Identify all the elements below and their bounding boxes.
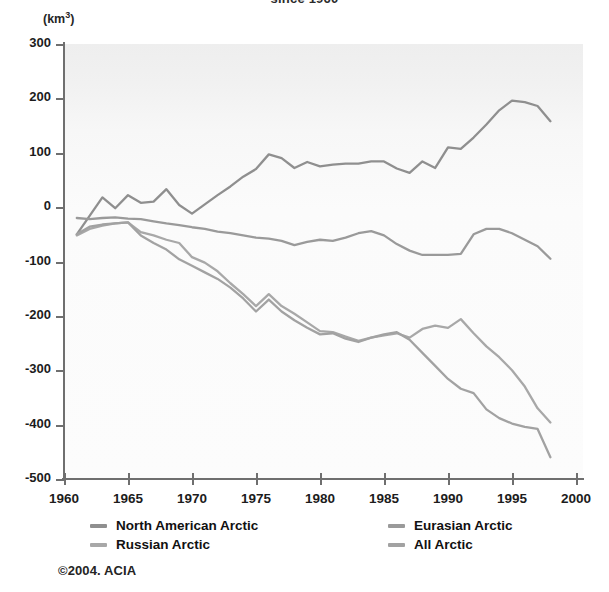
- y-axis-tick-label: -200: [25, 307, 51, 322]
- y-axis-tick: -300: [0, 370, 64, 371]
- y-axis-tick-mark: [56, 479, 64, 481]
- x-axis-tick-label: 1980: [305, 491, 335, 506]
- y-axis-tick-label: -100: [25, 253, 51, 268]
- legend-row: North American ArcticEurasian Arctic: [90, 518, 570, 537]
- legend-color-swatch: [90, 543, 107, 547]
- x-axis-tick-mark: [128, 473, 130, 485]
- copyright-credit: ©2004. ACIA: [58, 563, 136, 578]
- y-axis-tick-label: 300: [29, 35, 51, 50]
- plot-area: [64, 44, 583, 479]
- legend-item-label: All Arctic: [414, 537, 473, 552]
- y-axis-tick-label: -400: [25, 416, 51, 431]
- legend-item[interactable]: North American Arctic: [90, 518, 258, 533]
- y-axis-tick: 200: [0, 98, 64, 99]
- legend-color-swatch: [388, 543, 405, 547]
- x-axis-tick-mark: [256, 473, 258, 485]
- legend-item[interactable]: Eurasian Arctic: [388, 518, 513, 533]
- y-axis-tick: -100: [0, 262, 64, 263]
- y-axis-tick: -200: [0, 316, 64, 317]
- y-axis-unit-text: (km: [43, 12, 65, 26]
- y-axis-tick-label: 100: [29, 144, 51, 159]
- x-axis-line: [62, 478, 584, 480]
- x-axis-tick-mark: [64, 473, 66, 485]
- legend-color-swatch: [388, 524, 405, 528]
- chart-legend: North American ArcticEurasian ArcticRuss…: [90, 518, 570, 556]
- y-axis-tick-mark: [56, 153, 64, 155]
- x-axis-tick-mark: [576, 473, 578, 485]
- x-axis-tick-label: 2000: [561, 491, 591, 506]
- y-axis-tick-mark: [56, 370, 64, 372]
- y-axis-tick-label: -300: [25, 361, 51, 376]
- x-axis-tick-label: 1990: [433, 491, 463, 506]
- x-axis-tick-mark: [192, 473, 194, 485]
- y-axis-tick-label: -500: [25, 470, 51, 485]
- x-axis-tick-label: 1970: [177, 491, 207, 506]
- legend-item-label: North American Arctic: [116, 518, 258, 533]
- x-axis-tick-mark: [448, 473, 450, 485]
- x-axis-tick-label: 1975: [241, 491, 271, 506]
- y-axis-tick: 0: [0, 207, 64, 208]
- series-line: [77, 217, 551, 258]
- x-axis-tick-label: 1965: [113, 491, 143, 506]
- y-axis-tick-mark: [56, 425, 64, 427]
- y-axis-tick: 300: [0, 44, 64, 45]
- x-axis-tick-mark: [320, 473, 322, 485]
- y-axis-tick-mark: [56, 44, 64, 46]
- y-axis-tick-mark: [56, 207, 64, 209]
- y-axis-tick-label: 200: [29, 89, 51, 104]
- x-axis-tick-label: 1995: [497, 491, 527, 506]
- y-axis-tick: -500: [0, 479, 64, 480]
- plot-lines: [64, 44, 583, 479]
- y-axis-tick-mark: [56, 262, 64, 264]
- chart-title: since 1960: [0, 0, 609, 5]
- y-axis-unit-paren: ): [70, 12, 74, 26]
- y-axis-tick-label: 0: [44, 198, 51, 213]
- y-axis-tick-mark: [56, 316, 64, 318]
- x-axis-tick-label: 1960: [49, 491, 79, 506]
- y-axis-tick: -400: [0, 425, 64, 426]
- x-axis-tick-mark: [512, 473, 514, 485]
- chart-figure: since 1960 (km3) 3002001000-100-200-300-…: [0, 0, 609, 592]
- legend-item[interactable]: All Arctic: [388, 537, 473, 552]
- legend-row: Russian ArcticAll Arctic: [90, 537, 570, 556]
- legend-item-label: Eurasian Arctic: [414, 518, 513, 533]
- x-axis-tick-mark: [384, 473, 386, 485]
- legend-item-label: Russian Arctic: [116, 537, 210, 552]
- x-axis-tick-label: 1985: [369, 491, 399, 506]
- legend-color-swatch: [90, 524, 107, 528]
- y-axis-unit-label: (km3): [43, 10, 74, 26]
- series-line: [77, 101, 551, 235]
- series-line: [77, 222, 551, 422]
- legend-item[interactable]: Russian Arctic: [90, 537, 210, 552]
- y-axis-tick: 100: [0, 153, 64, 154]
- y-axis-tick-mark: [56, 98, 64, 100]
